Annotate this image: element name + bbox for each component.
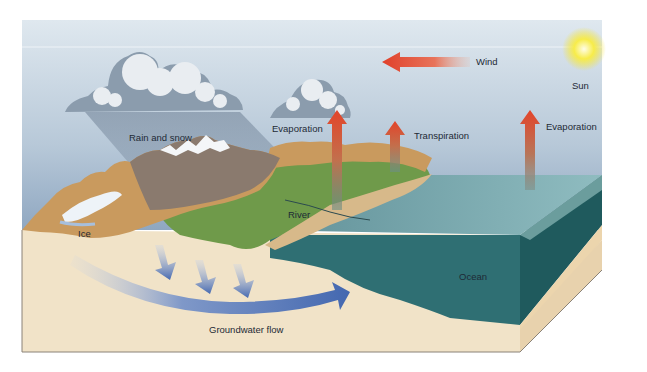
sun-label: Sun (572, 81, 589, 91)
rain-and-snow-label: Rain and snow (129, 133, 192, 143)
diagram-illustration (0, 0, 647, 372)
sun-icon (562, 27, 606, 71)
river-label: River (288, 210, 310, 220)
evaporation-land-label: Evaporation (272, 124, 323, 134)
ocean-label: Ocean (459, 272, 487, 282)
transpiration-label: Transpiration (414, 131, 469, 141)
ice-label: Ice (78, 229, 91, 239)
water-cycle-diagram: Wind Sun Rain and snow Evaporation Trans… (0, 0, 647, 372)
evaporation-ocean-label: Evaporation (546, 122, 597, 132)
groundwater-flow-label: Groundwater flow (209, 325, 283, 335)
wind-label: Wind (476, 57, 498, 67)
